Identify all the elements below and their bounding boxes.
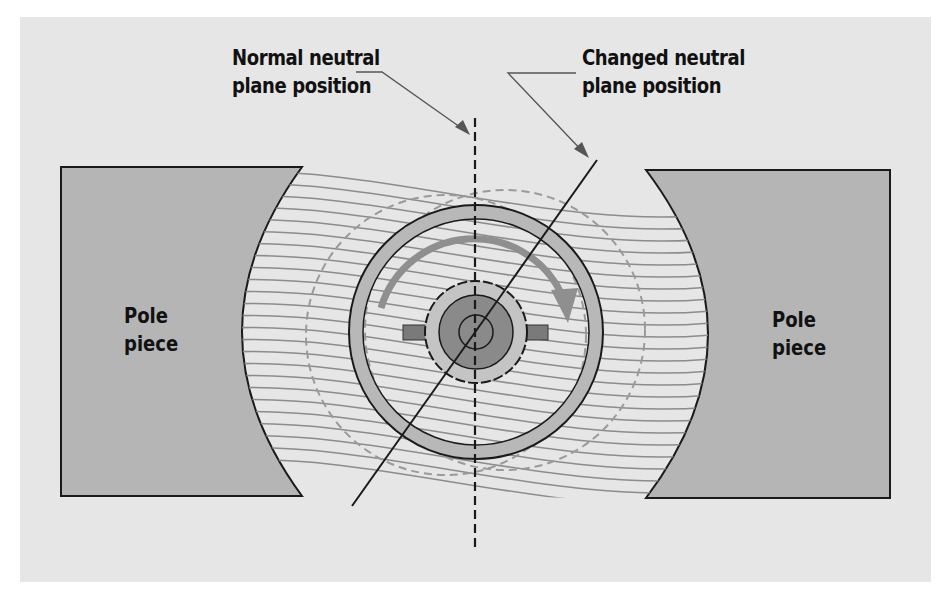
normal-neutral-plane-label: Normal neutral plane position <box>232 44 380 100</box>
left-brush <box>403 325 427 340</box>
left-pole-piece <box>61 167 302 496</box>
left-pole-label: Pole piece <box>124 302 178 358</box>
left-pole-label-line1: Pole <box>124 302 178 330</box>
changed-neutral-plane-label: Changed neutral plane position <box>582 44 745 100</box>
changed-plane-label-line1: Changed neutral <box>582 44 745 72</box>
normal-plane-label-line1: Normal neutral <box>232 44 380 72</box>
normal-plane-arrowhead-icon <box>455 120 470 135</box>
right-brush <box>526 325 548 340</box>
changed-plane-leader-line <box>508 73 585 154</box>
neutral-plane-diagram <box>0 0 944 589</box>
changed-plane-label-line2: plane position <box>582 72 745 100</box>
right-pole-label-line2: piece <box>772 334 826 362</box>
right-pole-label-line1: Pole <box>772 306 826 334</box>
left-pole-label-line2: piece <box>124 330 178 358</box>
normal-plane-label-line2: plane position <box>232 72 380 100</box>
right-pole-label: Pole piece <box>772 306 826 362</box>
right-pole-piece <box>646 170 890 498</box>
